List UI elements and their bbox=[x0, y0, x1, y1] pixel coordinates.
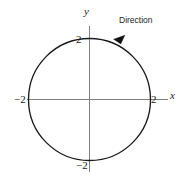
x-tick-label-positive-2: 2 bbox=[151, 94, 157, 105]
direction-annotation-label: Direction bbox=[119, 16, 153, 25]
plot-figure: y x 2 −2 −2 2 Direction bbox=[0, 0, 184, 185]
y-axis-label: y bbox=[84, 6, 89, 17]
y-tick-label-negative-2: −2 bbox=[76, 160, 88, 171]
direction-arrowhead bbox=[114, 35, 125, 44]
x-axis-label: x bbox=[170, 90, 175, 101]
y-tick-label-positive-2: 2 bbox=[76, 34, 82, 45]
x-tick-label-negative-2: −2 bbox=[14, 94, 26, 105]
